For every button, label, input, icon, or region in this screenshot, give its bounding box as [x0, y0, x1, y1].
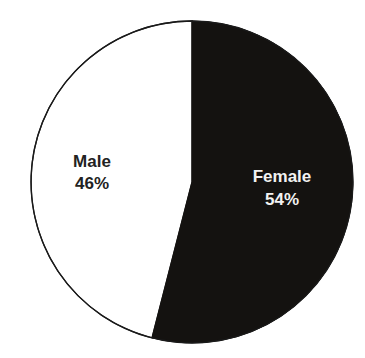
slice-label-female-name: Female [253, 167, 312, 186]
slice-label-male-pct: 46% [75, 174, 109, 193]
slice-label-female-pct: 54% [265, 190, 299, 209]
pie-chart: Male 46% Female 54% [0, 0, 365, 358]
slice-label-male-name: Male [73, 152, 111, 171]
